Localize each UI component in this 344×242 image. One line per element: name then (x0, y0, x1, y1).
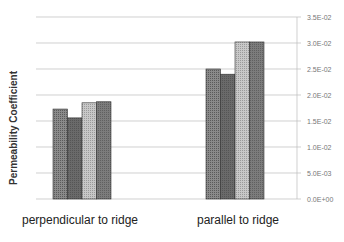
y-axis-label: Permeability Coefficient (8, 70, 19, 185)
y-tick-label: 3.5E-02 (307, 14, 332, 21)
bar (221, 74, 236, 199)
bar (206, 69, 221, 199)
bar-chart: 0.0E+005.0E-031.0E-021.5E-022.0E-022.5E-… (0, 0, 344, 242)
category-label: parallel to ridge (197, 213, 279, 227)
y-tick-label: 0.0E+00 (307, 196, 333, 203)
x-axis-categories: perpendicular to ridgeparallel to ridge (22, 213, 279, 227)
bar (53, 109, 68, 199)
y-tick-label: 1.5E-02 (307, 118, 332, 125)
y-tick-label: 2.0E-02 (307, 92, 332, 99)
bar (250, 42, 265, 199)
bar (82, 103, 97, 199)
bar (235, 42, 250, 199)
bar (97, 102, 112, 199)
y-tick-label: 5.0E-03 (307, 170, 332, 177)
y-tick-label: 3.0E-02 (307, 40, 332, 47)
bars (53, 42, 264, 199)
y-tick-label: 2.5E-02 (307, 66, 332, 73)
y-axis-ticks: 0.0E+005.0E-031.0E-021.5E-022.0E-022.5E-… (307, 14, 333, 203)
y-tick-label: 1.0E-02 (307, 144, 332, 151)
category-label: perpendicular to ridge (22, 213, 138, 227)
bar (68, 118, 83, 199)
